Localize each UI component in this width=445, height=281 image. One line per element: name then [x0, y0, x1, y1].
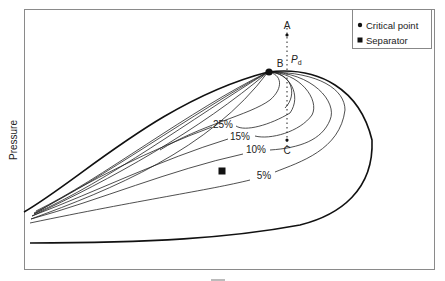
critical-point-marker — [265, 68, 272, 75]
quality-label-25: 25% — [213, 119, 233, 130]
legend-separator-label: Separator — [366, 35, 408, 46]
dew-pressure-label: Pd — [291, 54, 302, 66]
quality-label-15: 15% — [230, 131, 250, 142]
separator-marker — [219, 168, 226, 175]
quality-label-10: 10% — [246, 144, 266, 155]
quality-line-25 — [34, 72, 295, 214]
point-a-label: A — [284, 20, 291, 31]
dew-pressure-sub: d — [298, 59, 302, 66]
quality-lines — [30, 72, 345, 223]
phase-envelope — [24, 71, 372, 243]
legend-separator-icon — [358, 38, 363, 43]
point-a-marker — [285, 33, 288, 36]
point-b-label: B — [277, 58, 284, 69]
legend-critical-label: Critical point — [366, 20, 419, 31]
quality-label-5: 5% — [257, 170, 272, 181]
phase-envelope-chart: A B C Pd 25% 15% 10% 5% Pressure Critica… — [0, 0, 445, 281]
y-axis-label: Pressure — [8, 120, 19, 160]
point-c-label: C — [283, 145, 290, 156]
point-c-marker — [285, 138, 288, 141]
quality-line-5 — [30, 72, 345, 223]
quality-line-15 — [32, 72, 314, 216]
legend: Critical point Separator — [353, 10, 432, 49]
legend-critical-icon — [358, 23, 362, 27]
